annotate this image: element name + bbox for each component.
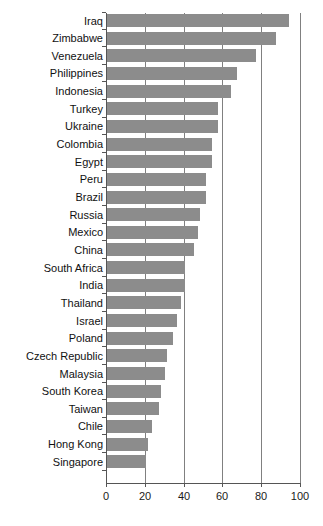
x-tick-label: 80 [241,489,281,503]
y-axis-line [106,13,107,483]
x-axis-line [106,483,301,484]
plot-area: IraqZimbabweVenezuelaPhilippinesIndonesi… [0,0,323,526]
x-tick-mark-40 [184,483,185,487]
category-label: Mexico [0,226,103,239]
bar-chart: IraqZimbabweVenezuelaPhilippinesIndonesi… [0,0,323,526]
category-label: Chile [0,420,103,433]
category-label: Venezuela [0,50,103,63]
category-label: China [0,244,103,257]
x-tick-mark-0 [106,483,107,487]
bar [107,208,200,221]
gridline-80 [261,13,262,483]
bar [107,226,198,239]
category-label: Indonesia [0,85,103,98]
bar [107,191,206,204]
bar [107,14,289,27]
category-label: Poland [0,332,103,345]
category-label: Philippines [0,67,103,80]
category-label: Ukraine [0,120,103,133]
category-label: Colombia [0,138,103,151]
bar [107,332,173,345]
bar [107,120,218,133]
bar [107,261,185,274]
bar [107,349,167,362]
category-label: India [0,279,103,292]
category-label: Singapore [0,456,103,469]
bar [107,455,146,468]
category-label: Brazil [0,191,103,204]
x-tick-label: 100 [280,489,320,503]
category-label: Hong Kong [0,438,103,451]
bar [107,155,212,168]
bar [107,314,177,327]
bar [107,49,256,62]
category-label: Zimbabwe [0,32,103,45]
bar [107,67,237,80]
x-tick-mark-80 [261,483,262,487]
bar [107,402,159,415]
category-label: Egypt [0,156,103,169]
category-label: Turkey [0,103,103,116]
bar [107,32,276,45]
bar [107,296,181,309]
bar [107,138,212,151]
category-label: Thailand [0,297,103,310]
bar [107,243,194,256]
category-label: Malaysia [0,368,103,381]
x-tick-label: 20 [125,489,165,503]
x-tick-label: 60 [202,489,242,503]
bar [107,420,152,433]
category-label: South Africa [0,262,103,275]
bar [107,279,185,292]
x-tick-mark-20 [145,483,146,487]
category-label: Taiwan [0,403,103,416]
gridline-60 [222,13,223,483]
bar [107,173,206,186]
category-label: Czech Republic [0,350,103,363]
bar [107,102,218,115]
category-label: South Korea [0,385,103,398]
x-tick-label: 0 [86,489,126,503]
x-tick-label: 40 [164,489,204,503]
gridline-100 [300,13,301,483]
bar [107,385,161,398]
bar [107,367,165,380]
bar [107,438,148,451]
x-tick-mark-100 [300,483,301,487]
category-label: Russia [0,209,103,222]
x-tick-mark-60 [222,483,223,487]
bar [107,85,231,98]
category-label: Iraq [0,15,103,28]
category-label: Peru [0,173,103,186]
category-label: Israel [0,315,103,328]
